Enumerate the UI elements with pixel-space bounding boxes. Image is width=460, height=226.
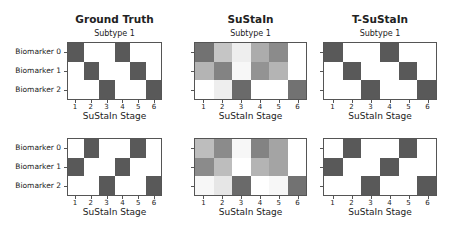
heatmap-cell [195, 43, 214, 62]
heatmap-cell [68, 176, 84, 195]
heatmap-cell [115, 43, 131, 62]
heatmap-cell [214, 80, 233, 99]
heatmap-cell [115, 158, 131, 177]
heatmap-cell [84, 43, 100, 62]
heatmap-cell [288, 139, 307, 158]
heatmap-cell [361, 176, 380, 195]
y-tick [64, 148, 67, 149]
x-axis-label: SuStaIn Stage [330, 111, 430, 121]
y-tick [320, 71, 323, 72]
heatmap-panel [67, 138, 162, 196]
heatmap-cell [99, 176, 115, 195]
heatmap-cell [251, 158, 270, 177]
y-tick [191, 148, 194, 149]
heatmap-cell [232, 158, 251, 177]
y-tick [64, 186, 67, 187]
heatmap-cell [361, 62, 380, 81]
x-tick-label: 5 [274, 103, 284, 111]
x-tick-label: 5 [133, 103, 143, 111]
heatmap-cell [214, 43, 233, 62]
x-tick-label: 2 [347, 103, 357, 111]
heatmap-cell [361, 80, 380, 99]
y-tick-label: Biomarker 1 [1, 66, 61, 75]
heatmap-cell [361, 158, 380, 177]
x-tick-label: 6 [149, 199, 159, 207]
heatmap-cell [84, 80, 100, 99]
y-tick [64, 71, 67, 72]
heatmap-cell [84, 158, 100, 177]
heatmap-cell [343, 62, 362, 81]
x-tick-label: 4 [385, 199, 395, 207]
heatmap-cell [343, 158, 362, 177]
heatmap-cell [232, 62, 251, 81]
heatmap-cell [269, 158, 288, 177]
heatmap-cell [232, 176, 251, 195]
heatmap-cell [232, 139, 251, 158]
heatmap-cell [99, 80, 115, 99]
y-tick-label: Biomarker 2 [1, 181, 61, 190]
x-tick-label: 5 [404, 103, 414, 111]
heatmap-cell [84, 62, 100, 81]
heatmap-cell [115, 62, 131, 81]
heatmap-cell [84, 139, 100, 158]
heatmap-cell [146, 62, 162, 81]
y-tick-label: Biomarker 0 [1, 47, 61, 56]
heatmap-cell [288, 80, 307, 99]
heatmap-cell [343, 80, 362, 99]
x-tick-label: 1 [198, 199, 208, 207]
x-tick-label: 1 [328, 103, 338, 111]
y-tick-label: Biomarker 0 [1, 143, 61, 152]
heatmap-cell [115, 80, 131, 99]
x-tick-label: 2 [86, 103, 96, 111]
heatmap-cell [195, 62, 214, 81]
heatmap-cell [417, 62, 436, 81]
heatmap-cell [399, 158, 418, 177]
heatmap-cell [146, 43, 162, 62]
y-tick [191, 90, 194, 91]
x-tick-label: 6 [149, 103, 159, 111]
x-tick-label: 2 [86, 199, 96, 207]
heatmap-cell [115, 176, 131, 195]
subplot-title: Subtype 1 [65, 29, 165, 38]
heatmap-cell [99, 43, 115, 62]
heatmap-cell [380, 158, 399, 177]
y-tick [191, 52, 194, 53]
heatmap-cell [130, 139, 146, 158]
heatmap-cell [146, 158, 162, 177]
x-tick-label: 1 [198, 103, 208, 111]
heatmap-cell [232, 80, 251, 99]
x-tick-label: 3 [366, 103, 376, 111]
heatmap-cell [417, 80, 436, 99]
x-tick-label: 3 [102, 199, 112, 207]
x-tick-label: 6 [293, 199, 303, 207]
heatmap-cell [269, 139, 288, 158]
y-tick [191, 167, 194, 168]
heatmap-cell [269, 80, 288, 99]
heatmap-cell [251, 43, 270, 62]
heatmap-cell [399, 43, 418, 62]
heatmap-cell [417, 176, 436, 195]
heatmap-cell [130, 62, 146, 81]
heatmap-cell [399, 80, 418, 99]
x-tick-label: 3 [236, 199, 246, 207]
heatmap-cell [417, 139, 436, 158]
heatmap-cell [130, 80, 146, 99]
heatmap-cell [380, 176, 399, 195]
x-tick-label: 3 [102, 103, 112, 111]
x-tick-label: 6 [423, 103, 433, 111]
heatmap-cell [288, 43, 307, 62]
y-tick [320, 186, 323, 187]
subplot-title: Subtype 1 [201, 29, 301, 38]
heatmap-cell [380, 62, 399, 81]
heatmap-panel [194, 138, 307, 196]
column-title: Ground Truth [55, 13, 175, 25]
x-tick-label: 4 [255, 199, 265, 207]
heatmap-cell [324, 62, 343, 81]
x-tick-label: 2 [217, 103, 227, 111]
x-tick-label: 4 [117, 199, 127, 207]
heatmap-cell [214, 139, 233, 158]
heatmap-cell [195, 139, 214, 158]
heatmap-cell [288, 176, 307, 195]
heatmap-cell [324, 139, 343, 158]
heatmap-panel [323, 138, 437, 196]
